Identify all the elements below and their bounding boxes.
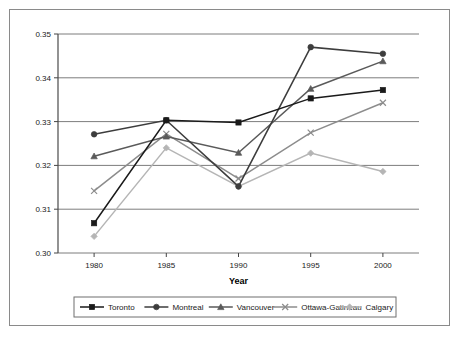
- marker-square: [380, 87, 385, 92]
- marker-diamond: [380, 168, 386, 174]
- series-line: [94, 61, 383, 156]
- data-point: [164, 118, 169, 123]
- marker-circle: [154, 304, 160, 310]
- data-point: [380, 87, 385, 92]
- series-vancouver: [91, 58, 386, 159]
- marker-square: [308, 96, 313, 101]
- xtick-label: 1980: [85, 261, 103, 270]
- legend-label: Vancouver: [237, 303, 275, 312]
- ytick-label: 0.33: [35, 118, 51, 127]
- marker-circle: [380, 51, 386, 57]
- legend-label: Calgary: [366, 303, 394, 312]
- x-axis-title: Year: [229, 276, 249, 286]
- legend-label: Toronto: [108, 303, 135, 312]
- line-chart-plot: 0.300.310.320.330.340.351980198519901995…: [0, 0, 463, 339]
- ytick-label: 0.30: [35, 249, 51, 258]
- legend-marker: [154, 304, 160, 310]
- marker-circle: [308, 44, 314, 50]
- data-point: [380, 100, 386, 106]
- marker-square: [164, 118, 169, 123]
- data-point: [308, 130, 314, 136]
- series-line: [94, 103, 383, 191]
- marker-circle: [91, 132, 97, 138]
- data-point: [380, 168, 386, 174]
- series-montreal: [91, 44, 385, 189]
- data-point: [92, 221, 97, 226]
- ytick-label: 0.35: [35, 30, 51, 39]
- data-point: [308, 44, 314, 50]
- xtick-label: 1990: [230, 261, 248, 270]
- data-point: [236, 184, 242, 190]
- ytick-label: 0.34: [35, 74, 51, 83]
- data-point: [91, 132, 97, 138]
- data-point: [236, 176, 242, 182]
- series-toronto: [92, 87, 386, 225]
- marker-square: [89, 304, 94, 309]
- data-point: [236, 120, 241, 125]
- marker-circle: [236, 184, 242, 190]
- legend-label: Montreal: [172, 303, 203, 312]
- ytick-label: 0.31: [35, 205, 51, 214]
- xtick-label: 2000: [374, 261, 392, 270]
- marker-square: [236, 120, 241, 125]
- marker-diamond: [308, 150, 314, 156]
- chart-figure: 0.300.310.320.330.340.351980198519901995…: [0, 0, 463, 339]
- marker-square: [92, 221, 97, 226]
- data-point: [308, 96, 313, 101]
- marker-triangle: [380, 58, 386, 64]
- xtick-label: 1995: [302, 261, 320, 270]
- data-point: [308, 150, 314, 156]
- data-point: [91, 188, 97, 194]
- data-point: [380, 51, 386, 57]
- ytick-label: 0.32: [35, 161, 51, 170]
- xtick-label: 1985: [157, 261, 175, 270]
- legend-marker: [89, 304, 94, 309]
- data-point: [380, 58, 386, 64]
- series-ottawa-gatineau: [91, 100, 386, 194]
